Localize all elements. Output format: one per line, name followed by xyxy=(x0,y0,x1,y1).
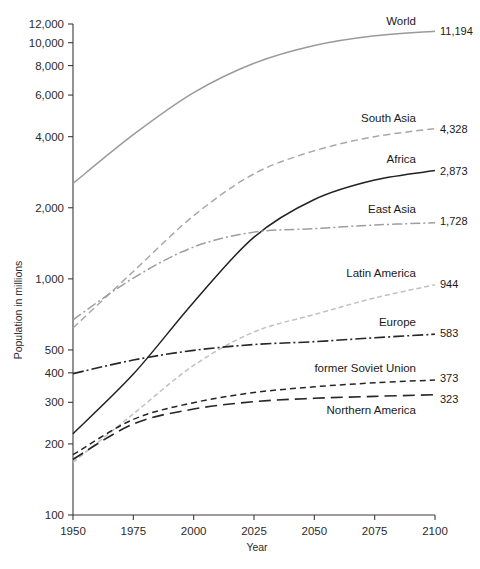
y-tick-label: 100 xyxy=(45,509,64,521)
x-tick-label: 2050 xyxy=(302,525,328,537)
x-tick-label: 2100 xyxy=(422,525,448,537)
series-value-east-asia: 1,728 xyxy=(440,215,468,227)
y-tick-label: 1,000 xyxy=(35,273,64,285)
x-tick-label: 2075 xyxy=(362,525,388,537)
y-tick-label: 12,000 xyxy=(29,18,64,30)
series-line-world xyxy=(73,31,435,183)
series-value-world: 11,194 xyxy=(440,25,473,37)
x-axis-title: Year xyxy=(246,541,268,553)
series-value-former-soviet-union: 373 xyxy=(440,372,458,384)
y-axis-title: Population in millions xyxy=(12,261,24,360)
series-value-europe: 583 xyxy=(440,327,458,339)
series-lines xyxy=(73,31,435,462)
y-tick-label: 6,000 xyxy=(35,89,64,101)
y-tick-label: 2,000 xyxy=(35,202,64,214)
y-tick-label: 300 xyxy=(45,396,64,408)
x-tick-label: 1950 xyxy=(60,525,86,537)
series-line-south-asia xyxy=(73,129,435,328)
series-label-world: World xyxy=(386,15,416,27)
y-tick-label: 200 xyxy=(45,438,64,450)
series-label-latin-america: Latin America xyxy=(346,267,416,279)
x-tick-label: 2000 xyxy=(181,525,207,537)
y-tick-label: 10,000 xyxy=(29,37,64,49)
chart-canvas: 1002003004005001,0002,0004,0006,0008,000… xyxy=(0,0,480,569)
x-tick-label: 2025 xyxy=(241,525,267,537)
series-labels: World11,194South Asia4,328Africa2,873Eas… xyxy=(314,15,472,416)
series-value-africa: 2,873 xyxy=(440,165,468,177)
x-tick-label: 1975 xyxy=(121,525,147,537)
y-tick-label: 8,000 xyxy=(35,60,64,72)
series-label-east-asia: East Asia xyxy=(368,203,417,215)
y-tick-label: 4,000 xyxy=(35,131,64,143)
series-value-south-asia: 4,328 xyxy=(440,123,468,135)
series-label-former-soviet-union: former Soviet Union xyxy=(314,362,416,374)
series-label-africa: Africa xyxy=(387,153,417,165)
y-axis-ticks: 1002003004005001,0002,0004,0006,0008,000… xyxy=(29,18,73,521)
series-label-northern-america: Northern America xyxy=(327,404,417,416)
y-tick-label: 500 xyxy=(45,344,64,356)
series-label-south-asia: South Asia xyxy=(361,112,417,124)
x-axis-ticks: 1950197520002025205020752100 xyxy=(60,515,448,537)
series-line-former-soviet-union xyxy=(73,380,435,455)
y-tick-label: 400 xyxy=(45,367,64,379)
series-label-europe: Europe xyxy=(379,316,416,328)
series-value-northern-america: 323 xyxy=(440,393,458,405)
population-projection-chart: 1002003004005001,0002,0004,0006,0008,000… xyxy=(0,0,480,569)
series-value-latin-america: 944 xyxy=(440,278,458,290)
